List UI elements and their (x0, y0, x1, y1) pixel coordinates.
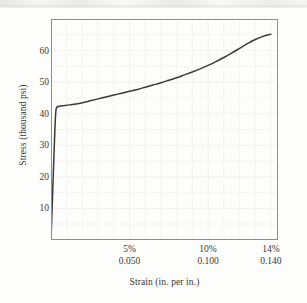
x-tick-label-percent: 5% (100, 244, 160, 255)
x-axis-title: Strain (in. per in.) (51, 277, 278, 287)
x-tick-label-decimal: 0.140 (241, 255, 301, 267)
x-tick-label-percent: 14% (241, 244, 301, 255)
y-tick-label: 60 (27, 46, 49, 56)
y-axis-title: Stress (thousand psi) (18, 55, 28, 195)
x-tick-group: 10% 0.100 (178, 244, 238, 267)
plot-frame (51, 19, 278, 240)
stress-strain-figure: 10 20 30 40 50 60 Stress (thousand psi) … (0, 0, 307, 303)
y-tick-label: 30 (27, 140, 49, 150)
y-tick-label: 10 (27, 203, 49, 213)
y-axis-ticks: 10 20 30 40 50 60 (25, 0, 49, 303)
y-tick-label: 50 (27, 77, 49, 87)
x-tick-label-decimal: 0.050 (100, 255, 160, 267)
x-tick-label-percent: 10% (178, 244, 238, 255)
x-tick-group: 14% 0.140 (241, 244, 301, 267)
x-tick-label-decimal: 0.100 (178, 255, 238, 267)
y-tick-label: 20 (27, 172, 49, 182)
x-tick-group: 5% 0.050 (100, 244, 160, 267)
y-tick-label: 40 (27, 109, 49, 119)
